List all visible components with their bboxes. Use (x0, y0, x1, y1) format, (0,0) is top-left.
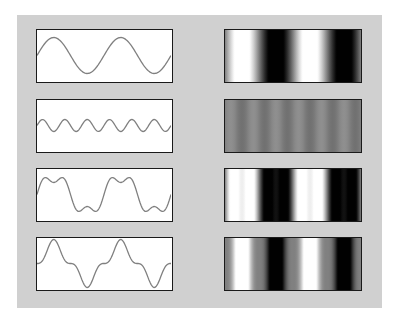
waveform-third-harmonic (36, 99, 173, 153)
waveform-sum (36, 168, 173, 222)
grating-fundamental (224, 29, 362, 83)
figure-panel (17, 15, 382, 308)
waveform-difference (36, 237, 173, 291)
waveform-fundamental (36, 29, 173, 83)
grating-third-harmonic (224, 99, 362, 153)
grating-sum (224, 168, 362, 222)
grating-difference (224, 237, 362, 291)
